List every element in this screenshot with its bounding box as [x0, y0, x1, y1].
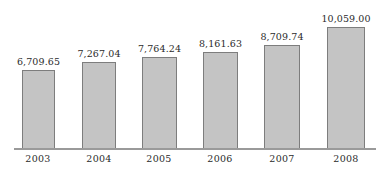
bar-2008	[327, 27, 365, 149]
bar-2003	[22, 70, 55, 149]
bar-value-label: 8,709.74	[260, 31, 303, 42]
bar-value-label: 7,267.04	[77, 48, 120, 59]
bar-2006	[203, 52, 238, 149]
plot-area: 6,709.65 7,267.04 7,764.24 8,161.63 8,70…	[0, 0, 389, 149]
bar-2005	[142, 57, 177, 149]
bar-value-label: 8,161.63	[199, 38, 242, 49]
x-tick-2003: 2003	[25, 153, 50, 164]
bar-group-2006: 8,161.63	[203, 52, 238, 149]
x-axis-baseline	[14, 148, 376, 150]
bar-group-2008: 10,059.00	[327, 27, 365, 149]
bar-value-label: 10,059.00	[321, 13, 370, 24]
bar-2004	[82, 62, 116, 149]
bar-group-2004: 7,267.04	[82, 62, 116, 149]
bar-group-2005: 7,764.24	[142, 57, 177, 149]
x-tick-2006: 2006	[207, 153, 232, 164]
x-tick-2008: 2008	[333, 153, 358, 164]
bar-2007	[264, 45, 300, 149]
bar-group-2007: 8,709.74	[264, 45, 300, 149]
bar-chart: 6,709.65 7,267.04 7,764.24 8,161.63 8,70…	[0, 0, 389, 176]
x-tick-2005: 2005	[146, 153, 171, 164]
bar-group-2003: 6,709.65	[22, 70, 55, 149]
bar-value-label: 7,764.24	[138, 43, 181, 54]
x-tick-2007: 2007	[269, 153, 294, 164]
x-tick-2004: 2004	[86, 153, 111, 164]
x-axis-tick-labels: 2003 2004 2005 2006 2007 2008	[0, 153, 389, 173]
bar-value-label: 6,709.65	[17, 56, 60, 67]
